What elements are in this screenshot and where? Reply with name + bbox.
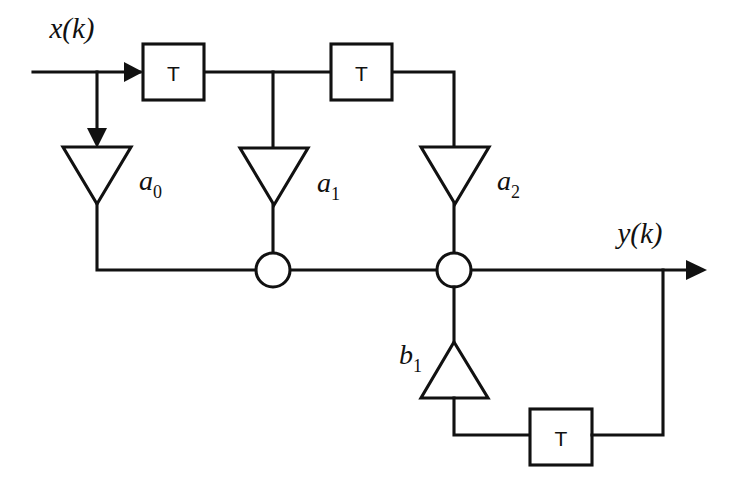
gain-label-a1-subscript: 1 <box>331 184 340 204</box>
gain-triangle-a2-body <box>421 147 489 204</box>
arrowhead-output-icon <box>686 260 707 280</box>
gain-label-a0-subscript: 0 <box>153 182 162 202</box>
gain-label-b1-symbol: b <box>399 339 413 370</box>
delay-block-1-label: T <box>167 62 180 85</box>
delay-block-1[interactable]: T <box>143 44 204 100</box>
gain-label-b1: b1 <box>399 339 422 376</box>
output-signal-label: y(k) <box>614 217 662 250</box>
gain-label-a0: a0 <box>139 165 162 202</box>
gain-label-a2: a2 <box>497 165 520 202</box>
gain-label-b1-subscript: 1 <box>413 356 422 376</box>
input-signal-label: x(k) <box>48 12 94 45</box>
gain-triangle-a1[interactable] <box>240 148 308 205</box>
filter-block-diagram: T T <box>0 0 740 498</box>
wire-a0-to-sum1 <box>97 204 273 270</box>
gain-triangle-a1-body <box>240 148 308 205</box>
gain-label-a2-subscript: 2 <box>511 182 520 202</box>
gain-triangle-b1[interactable] <box>421 342 488 398</box>
gain-label-a2-symbol: a <box>497 165 511 196</box>
gain-triangle-a0[interactable] <box>63 147 131 204</box>
wire-b1-to-delay-feedback <box>454 398 530 435</box>
delay-block-feedback-label: T <box>555 427 568 450</box>
delay-block-feedback[interactable]: T <box>530 409 592 465</box>
gain-label-a0-symbol: a <box>139 165 153 196</box>
wire-delay2-to-a2 <box>392 72 454 147</box>
gain-triangle-b1-body <box>421 342 488 398</box>
gain-triangle-a2[interactable] <box>421 147 489 204</box>
arrowhead-input-icon <box>124 62 143 82</box>
wire-output-tap-to-delay-feedback <box>592 270 663 435</box>
gain-triangle-a0-body <box>63 147 131 204</box>
summing-junction-2[interactable] <box>437 253 471 287</box>
delay-block-2[interactable]: T <box>331 44 392 100</box>
diagram-canvas: T T <box>0 0 740 498</box>
gain-label-a1-symbol: a <box>317 167 331 198</box>
summing-junction-1[interactable] <box>256 253 290 287</box>
delay-block-2-label: T <box>355 62 368 85</box>
gain-label-a1: a1 <box>317 167 340 204</box>
arrowhead-a0-input-icon <box>87 128 107 148</box>
